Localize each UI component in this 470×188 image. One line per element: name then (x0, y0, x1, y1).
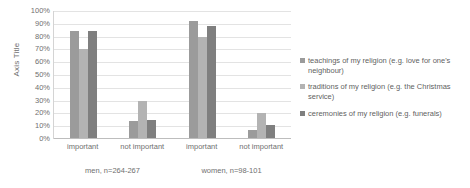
bar (266, 125, 275, 139)
bar (147, 120, 156, 139)
bar (129, 121, 138, 139)
legend-label: teachings of my religion (e.g. love for … (308, 56, 468, 76)
bar (88, 31, 97, 139)
legend-label: traditions of my religion (e.g. the Chri… (308, 82, 468, 102)
chart-legend: teachings of my religion (e.g. love for … (300, 56, 468, 125)
y-axis-tick-label: 60% (22, 58, 50, 66)
legend-item[interactable]: ceremonies of my religion (e.g. funerals… (300, 109, 468, 119)
y-axis-title: Axis Title (12, 20, 21, 100)
legend-label: ceremonies of my religion (e.g. funerals… (308, 109, 442, 119)
bar (189, 21, 198, 139)
bar-group (248, 11, 275, 139)
legend-swatch-icon (300, 58, 305, 63)
y-axis-tick-label: 40% (22, 84, 50, 92)
bar (198, 37, 207, 139)
bar-cluster (54, 11, 113, 139)
legend-swatch-icon (300, 84, 305, 89)
y-axis-tick-label: 0% (22, 135, 50, 143)
plot-area (53, 11, 291, 139)
x-axis-tick-label: important (172, 142, 232, 164)
y-axis-tick-label: 70% (22, 46, 50, 54)
y-axis-tick-label: 80% (22, 33, 50, 41)
bar-group (129, 11, 156, 139)
bar-cluster (113, 11, 172, 139)
bar-cluster (232, 11, 291, 139)
bar (207, 26, 216, 139)
legend-swatch-icon (300, 111, 305, 116)
y-axis-tick-label: 50% (22, 71, 50, 79)
bar-group (70, 11, 97, 139)
x-axis-line (54, 138, 291, 139)
y-axis-tick-label: 100% (22, 7, 50, 15)
x-axis-tick-label: important (53, 142, 113, 164)
x-axis-tick-label: not important (232, 142, 292, 164)
bar (70, 31, 79, 139)
bar (79, 49, 88, 139)
bar-group (189, 11, 216, 139)
bar (257, 113, 266, 139)
x-axis-tick-label: not important (113, 142, 173, 164)
y-axis-tick-label: 30% (22, 97, 50, 105)
y-axis-tick-labels: 100%90%80%70%60%50%40%30%20%10%0% (22, 11, 50, 139)
group-label-women: women, n=98-101 (172, 166, 291, 180)
group-label-men: men, n=264-267 (53, 166, 172, 180)
x-axis-category-labels: importantnot importantimportantnot impor… (53, 142, 291, 164)
bar-chart: Axis Title 100%90%80%70%60%50%40%30%20%1… (0, 0, 470, 188)
legend-item[interactable]: teachings of my religion (e.g. love for … (300, 56, 468, 76)
y-axis-tick-label: 20% (22, 110, 50, 118)
legend-item[interactable]: traditions of my religion (e.g. the Chri… (300, 82, 468, 102)
x-axis-group-labels: men, n=264-267 women, n=98-101 (53, 166, 291, 180)
y-axis-tick-label: 90% (22, 20, 50, 28)
y-axis-tick-label: 10% (22, 122, 50, 130)
bar (138, 101, 147, 139)
bar-clusters (54, 11, 291, 139)
bar-cluster (173, 11, 232, 139)
